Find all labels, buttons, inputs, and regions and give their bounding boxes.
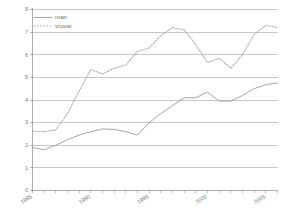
x-tick-label-2000: 2000 xyxy=(194,193,208,205)
chart-canvas: 012345678 19851990199520002005 manvrouw xyxy=(0,0,284,215)
x-tick-label-1990: 1990 xyxy=(78,193,92,205)
x-tick-label-1995: 1995 xyxy=(136,193,150,205)
chart-legend: manvrouw xyxy=(34,13,72,29)
y-tick-label-6: 6 xyxy=(25,52,28,58)
series-line-man xyxy=(33,83,278,150)
x-tick-label-2005: 2005 xyxy=(253,193,267,205)
axes-group xyxy=(33,8,278,191)
legend-label-man: man xyxy=(55,13,68,20)
legend-label-vrouw: vrouw xyxy=(55,22,72,29)
y-tick-label-5: 5 xyxy=(25,74,28,80)
y-axis-labels: 012345678 xyxy=(25,6,28,193)
line-chart: 012345678 19851990199520002005 manvrouw xyxy=(0,0,284,215)
series-line-vrouw xyxy=(33,25,278,131)
data-series-group xyxy=(33,25,278,149)
y-tick-label-4: 4 xyxy=(25,97,28,103)
y-tick-label-3: 3 xyxy=(25,119,28,125)
y-tick-label-8: 8 xyxy=(25,6,28,12)
x-axis-labels: 19851990199520002005 xyxy=(19,193,266,205)
y-tick-label-7: 7 xyxy=(25,29,28,35)
x-tick-label-1985: 1985 xyxy=(19,193,33,205)
tick-marks-group xyxy=(30,10,278,194)
y-tick-label-2: 2 xyxy=(25,142,28,148)
y-tick-label-1: 1 xyxy=(25,165,28,171)
y-tick-label-0: 0 xyxy=(25,187,28,193)
gridlines-group xyxy=(33,10,278,168)
